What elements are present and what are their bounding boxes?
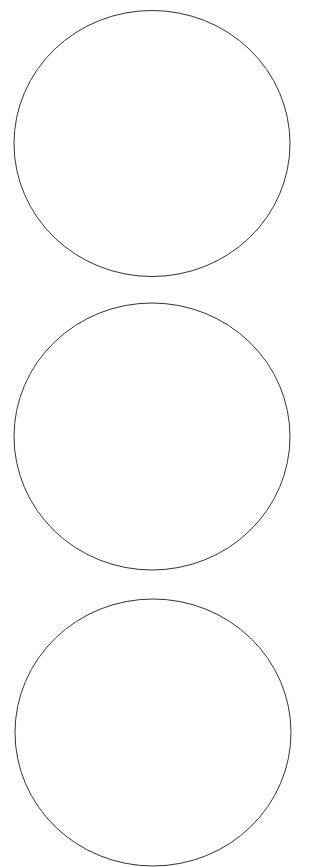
circle-2 (14, 303, 290, 570)
circle-2-group (14, 303, 290, 570)
diagram-canvas (0, 0, 311, 867)
circle-1-group (14, 11, 290, 277)
circle-3-group (15, 599, 291, 866)
circle-1 (14, 11, 290, 277)
circle-3 (15, 599, 291, 866)
